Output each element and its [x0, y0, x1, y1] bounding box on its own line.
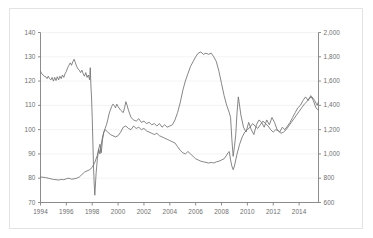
y-axis-right-tick-label: 1,600 — [324, 77, 354, 84]
y-axis-left-tick-label: 120 — [10, 77, 36, 84]
y-axis-right-tick-label: 800 — [324, 174, 354, 181]
y-axis-right-tick-label: 2,000 — [324, 29, 354, 36]
y-axis-left-tick-label: 90 — [10, 150, 36, 157]
y-axis-right-tick-label: 1,800 — [324, 53, 354, 60]
data-series-group — [41, 52, 319, 195]
gridlines — [41, 33, 319, 203]
y-axis-right-tick-label: 1,400 — [324, 101, 354, 108]
y-axis-right-tick-label: 1,000 — [324, 150, 354, 157]
chart-figure: 708090100110120130140 6008001,0001,2001,… — [0, 0, 373, 238]
y-axis-left-tick-label: 70 — [10, 199, 36, 206]
y-axis-left-tick-label: 140 — [10, 29, 36, 36]
y-axis-left-tick-label: 130 — [10, 53, 36, 60]
y-axis-left-tick-label: 80 — [10, 174, 36, 181]
y-axis-right-tick-label: 600 — [324, 199, 354, 206]
axis-lines — [41, 33, 319, 203]
y-axis-right-tick-label: 1,200 — [324, 126, 354, 133]
series-right-axis — [41, 97, 319, 180]
x-axis-tick-label: 2014 — [284, 208, 314, 215]
axis-ticks — [38, 33, 321, 206]
plot-canvas — [0, 0, 373, 238]
y-axis-left-tick-label: 110 — [10, 101, 36, 108]
y-axis-left-tick-label: 100 — [10, 126, 36, 133]
